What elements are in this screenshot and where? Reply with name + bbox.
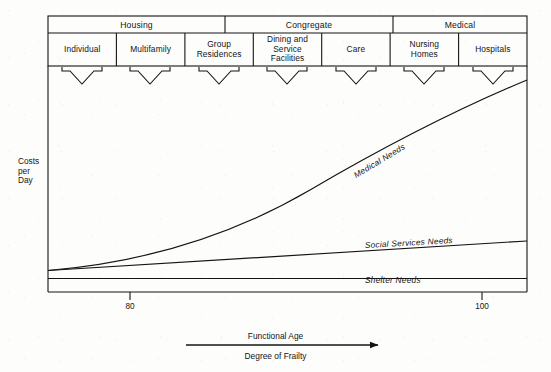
y-axis-label-line: Day	[18, 176, 39, 186]
setting-cell-hospitals: Hospitals	[459, 33, 527, 66]
setting-cell-care: Care	[322, 33, 390, 66]
x-tick-label-100: 100	[470, 302, 494, 311]
setting-cell-multifamily: Multifamily	[116, 33, 184, 66]
flow-arrow-down-icon	[199, 67, 239, 84]
caption-degree-of-frailty: Degree of Frailty	[0, 351, 551, 361]
flow-arrow-down-icon	[62, 67, 102, 84]
x-axis-ticks	[130, 292, 482, 300]
setting-label-line: Individual	[64, 45, 100, 54]
setting-cell-dining-and-service-facilities: Dining and Service Facilities	[253, 33, 321, 66]
setting-label-line: Residences	[197, 50, 242, 59]
flow-arrows-group	[62, 67, 513, 84]
flow-arrow-down-icon	[336, 67, 376, 84]
curve-medical-needs	[48, 80, 527, 271]
category-label: Housing	[120, 20, 153, 30]
category-cell-congregate: Congregate	[225, 16, 393, 33]
setting-label-line: Multifamily	[130, 45, 171, 54]
flow-arrow-down-icon	[130, 67, 170, 84]
flow-arrow-down-icon	[473, 67, 513, 84]
setting-label-line: Hospitals	[475, 45, 510, 54]
x-tick-label-80: 80	[118, 302, 142, 311]
category-cell-housing: Housing	[48, 16, 225, 33]
setting-cell-group-residences: Group Residences	[185, 33, 253, 66]
setting-label-line: Homes	[410, 50, 440, 59]
setting-cell-nursing-homes: Nursing Homes	[390, 33, 458, 66]
setting-label-line: Care	[347, 45, 366, 54]
setting-label-line: Facilities	[267, 54, 308, 63]
setting-cell-individual: Individual	[48, 33, 116, 66]
flow-arrow-down-icon	[404, 67, 444, 84]
category-label: Congregate	[286, 20, 332, 30]
flow-arrow-down-icon	[267, 67, 307, 84]
curve-social-services-needs	[48, 241, 527, 271]
y-axis-label: Costs per Day	[18, 157, 39, 186]
figure-canvas: Housing Congregate Medical Individual Mu…	[0, 0, 551, 372]
curve-label-shelter-needs: Shelter Needs	[365, 275, 421, 285]
plot-frame	[48, 66, 527, 292]
category-cell-medical: Medical	[393, 16, 527, 33]
category-label: Medical	[445, 20, 476, 30]
caption-functional-age: Functional Age	[0, 331, 551, 341]
curves-group	[48, 80, 527, 279]
